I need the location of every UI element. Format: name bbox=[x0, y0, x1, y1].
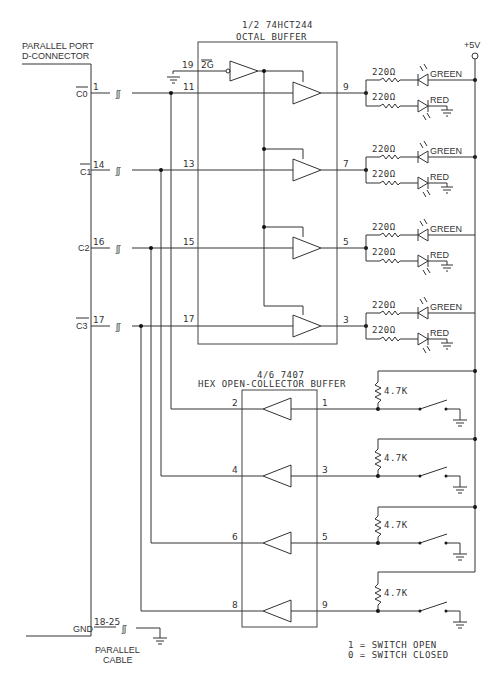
hex-buffer-box bbox=[242, 390, 317, 627]
enable-pin: 19 bbox=[182, 60, 194, 70]
switch-block-3: 4.7K bbox=[375, 507, 475, 560]
ground-icon bbox=[453, 487, 467, 493]
cable-label-line2: CABLE bbox=[103, 655, 133, 665]
pullup-resistor-icon bbox=[375, 449, 381, 476]
supply-terminal-icon bbox=[472, 53, 478, 59]
enable-buffer-triangle bbox=[230, 61, 258, 81]
red-label: RED bbox=[430, 172, 450, 182]
resistor-value: 220Ω bbox=[372, 300, 396, 310]
cable-break-icon: ʃʃ bbox=[115, 322, 121, 332]
hex-input-pin: 5 bbox=[322, 532, 328, 542]
signal-c0-pin: 1 bbox=[93, 82, 99, 92]
ground-icon bbox=[453, 554, 467, 560]
ground-icon bbox=[167, 77, 180, 83]
legend-line1: 1 = SWITCH OPEN bbox=[348, 640, 437, 650]
hex-input-pin: 1 bbox=[322, 398, 328, 408]
signal-c1-label: C1 bbox=[80, 167, 92, 177]
input-pin-13: 13 bbox=[183, 159, 194, 169]
hex-input-pin: 9 bbox=[322, 600, 328, 610]
pullup-value: 4.7K bbox=[384, 520, 408, 530]
led-pair-2: 220Ω 220Ω GREEN bbox=[364, 141, 477, 197]
switch-block-2: 4.7K bbox=[375, 439, 475, 493]
gnd-label: GND bbox=[73, 624, 94, 634]
red-label: RED bbox=[430, 328, 450, 338]
resistor-icon bbox=[380, 155, 400, 159]
pullup-resistor-icon bbox=[375, 382, 381, 409]
red-label: RED bbox=[430, 95, 450, 105]
led-pair-4: 220Ω 220Ω GREEN bbox=[364, 297, 475, 353]
led-pair-3: 220Ω 220Ω GREEN bbox=[364, 219, 475, 275]
switch-icon bbox=[420, 467, 447, 476]
switch-icon bbox=[420, 602, 447, 611]
parallel-port-connector: PARALLEL PORT D-CONNECTOR C0 1 C1 14 C2 … bbox=[22, 41, 140, 665]
buffer-triangle bbox=[293, 315, 321, 337]
ground-icon bbox=[453, 622, 467, 628]
switch-legend: 1 = SWITCH OPEN 0 = SWITCH CLOSED bbox=[348, 640, 449, 660]
green-label: GREEN bbox=[430, 224, 462, 234]
pullup-value: 4.7K bbox=[384, 588, 408, 598]
cable-label-line1: PARALLEL bbox=[95, 645, 140, 655]
green-label: GREEN bbox=[430, 146, 462, 156]
hex-input-pin: 3 bbox=[322, 465, 328, 475]
hex-output-pin: 4 bbox=[232, 465, 238, 475]
hex-output-pin: 6 bbox=[232, 532, 238, 542]
hex-output-pin: 2 bbox=[232, 398, 238, 408]
supply-rail: +5V bbox=[464, 40, 480, 572]
buffer-triangle bbox=[263, 398, 291, 420]
pullup-resistor-icon bbox=[375, 584, 381, 611]
cable-break-icon: ʃʃ bbox=[115, 89, 121, 99]
gnd-pins: 18-25 bbox=[94, 617, 120, 627]
input-pin-15: 15 bbox=[183, 237, 194, 247]
resistor-value: 220Ω bbox=[372, 67, 396, 77]
pullup-resistor-icon bbox=[375, 516, 381, 543]
green-label: GREEN bbox=[430, 69, 462, 79]
octal-buffer-title-line2: OCTAL BUFFER bbox=[236, 32, 307, 42]
switch-icon bbox=[420, 400, 447, 409]
octal-buffer-box bbox=[198, 42, 337, 344]
switch-block-4: 4.7K bbox=[375, 572, 475, 628]
switch-icon bbox=[420, 534, 447, 543]
signal-c2-pin: 16 bbox=[93, 237, 105, 247]
resistor-value: 220Ω bbox=[372, 92, 396, 102]
legend-line2: 0 = SWITCH CLOSED bbox=[348, 650, 449, 660]
resistor-value: 220Ω bbox=[372, 325, 396, 335]
output-pin-9: 9 bbox=[343, 82, 349, 92]
ground-icon bbox=[136, 628, 167, 644]
enable-label: 2G bbox=[201, 60, 214, 70]
input-pin-11: 11 bbox=[183, 82, 194, 92]
output-pin-5: 5 bbox=[343, 237, 349, 247]
buffer-triangle bbox=[293, 159, 321, 181]
resistor-icon bbox=[380, 337, 400, 341]
hex-buffer-title-line2: HEX OPEN-COLLECTOR BUFFER bbox=[198, 379, 346, 389]
signal-c1-pin: 14 bbox=[93, 160, 105, 170]
switch-block-1: 4.7K bbox=[375, 371, 475, 426]
cable-break-icons: ʃʃ ʃʃ ʃʃ ʃʃ ʃʃ bbox=[115, 89, 127, 634]
output-pin-3: 3 bbox=[343, 315, 349, 325]
resistor-icon bbox=[380, 259, 400, 263]
cable-break-icon: ʃʃ bbox=[121, 624, 127, 634]
resistor-icon bbox=[380, 104, 400, 108]
connector-title-line2: D-CONNECTOR bbox=[22, 51, 90, 61]
octal-buffer-74hct244: 1/2 74HCT244 OCTAL BUFFER 19 2G 11 13 15… bbox=[167, 20, 366, 344]
resistor-icon bbox=[380, 311, 400, 315]
resistor-icon bbox=[380, 233, 400, 237]
ground-icon bbox=[453, 420, 467, 426]
signal-wires bbox=[132, 91, 293, 611]
red-label: RED bbox=[430, 250, 450, 260]
buffer-triangle bbox=[293, 237, 321, 259]
hex-output-pin: 8 bbox=[232, 600, 238, 610]
resistor-value: 220Ω bbox=[372, 247, 396, 257]
buffer-triangle bbox=[263, 465, 291, 487]
led-pair-1: 220Ω 220Ω GREEN bbox=[364, 64, 477, 120]
connector-outline bbox=[22, 64, 91, 636]
resistor-icon bbox=[380, 181, 400, 185]
switch-blocks: 4.7K 4.7K bbox=[375, 371, 475, 628]
supply-label: +5V bbox=[464, 40, 480, 50]
green-label: GREEN bbox=[430, 302, 462, 312]
octal-buffer-title-line1: 1/2 74HCT244 bbox=[242, 20, 313, 30]
cable-break-icon: ʃʃ bbox=[115, 166, 121, 176]
buffer-triangle bbox=[293, 82, 321, 104]
resistor-icon bbox=[380, 78, 400, 82]
input-pin-17: 17 bbox=[183, 314, 194, 324]
resistor-value: 220Ω bbox=[372, 222, 396, 232]
